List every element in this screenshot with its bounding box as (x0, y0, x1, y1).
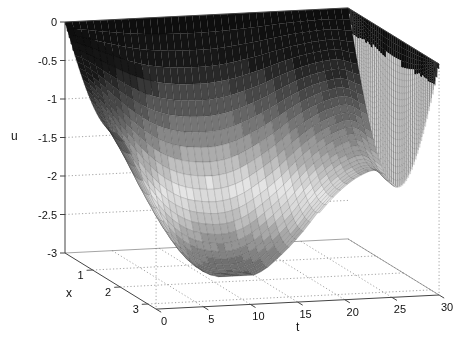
x-axis-label: x (66, 286, 72, 300)
figure: u x t (0, 0, 466, 347)
u-axis-label: u (11, 129, 18, 143)
t-axis-label: t (296, 320, 299, 334)
